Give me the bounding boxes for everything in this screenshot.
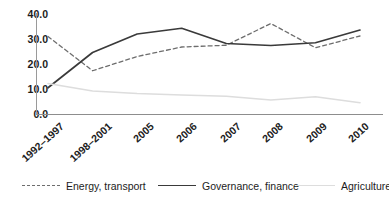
x-axis-line xyxy=(36,114,383,115)
legend-label: Agriculture xyxy=(341,180,389,192)
legend-label: Energy, transport xyxy=(66,180,146,192)
legend-label: Governance, finance xyxy=(202,180,299,192)
line-chart: 40.0 30.0 20.0 10.0 0.0 1992–1997 1998–2… xyxy=(0,0,389,201)
series-line xyxy=(48,28,360,88)
x-axis-tick-label: 1998–2001 xyxy=(63,120,114,168)
legend-item-energy-transport[interactable]: Energy, transport xyxy=(22,178,146,194)
series-line xyxy=(48,84,360,103)
x-axis-tick-label: 1992–1997 xyxy=(15,120,66,168)
x-axis-tick-label: 2007 xyxy=(211,120,243,150)
x-axis-tick-label: 2009 xyxy=(297,120,329,150)
chart-title xyxy=(0,0,389,2)
legend-swatch-light-icon xyxy=(297,181,335,191)
x-axis-tick-label: 2008 xyxy=(253,120,285,150)
legend-swatch-solid-icon xyxy=(158,181,196,191)
legend-item-governance-finance[interactable]: Governance, finance xyxy=(158,178,299,194)
series-line xyxy=(48,24,360,71)
chart-legend: Energy, transport Governance, finance Ag… xyxy=(0,178,389,198)
x-axis-tick-label: 2006 xyxy=(167,120,199,150)
series-lines xyxy=(36,14,382,114)
plot-area xyxy=(36,14,382,114)
x-axis-tick-label: 2005 xyxy=(124,120,156,150)
legend-item-agriculture[interactable]: Agriculture xyxy=(297,178,389,194)
legend-swatch-dashed-icon xyxy=(22,181,60,191)
x-axis-tick-label: 2010 xyxy=(339,120,371,150)
